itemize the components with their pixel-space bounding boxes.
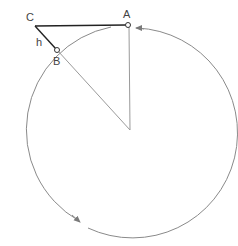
tangent-line-ca	[35, 25, 126, 26]
label-b: B	[53, 55, 60, 67]
label-c: C	[26, 11, 34, 23]
geometry-diagram: C A h B	[0, 0, 238, 246]
label-h: h	[36, 36, 42, 48]
point-b-marker	[55, 48, 60, 53]
arrow-bottom-left-icon	[72, 215, 80, 222]
circle-arc-right	[88, 28, 238, 238]
circle-arc-left	[26, 27, 111, 221]
label-a: A	[123, 8, 131, 20]
point-a-marker	[126, 23, 131, 28]
radius-ob	[58, 51, 130, 130]
radius-oa	[129, 27, 130, 130]
